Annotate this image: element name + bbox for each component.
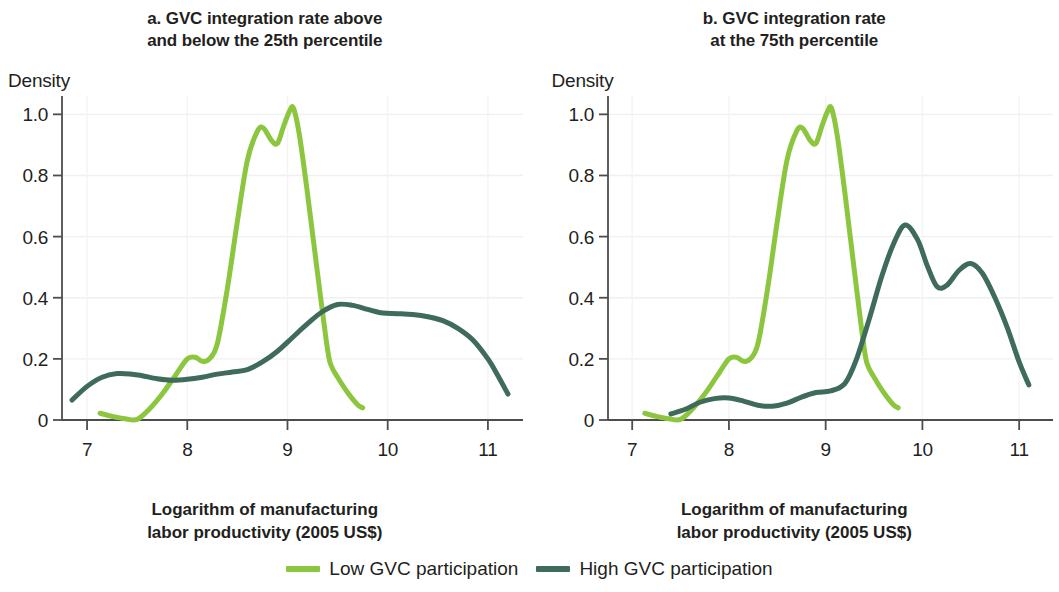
x-tick-label: 7	[627, 439, 637, 460]
panel-a-x-axis-title: Logarithm of manufacturing labor product…	[0, 498, 530, 544]
legend-item-high-gvc: High GVC participation	[536, 558, 772, 580]
x-tick-label: 9	[820, 439, 830, 460]
x-tick-label: 10	[912, 439, 933, 460]
panel-a-chart: 00.20.40.60.81.07891011	[0, 52, 529, 492]
legend-label-low-gvc: Low GVC participation	[329, 558, 518, 580]
y-tick-label: 0.6	[568, 227, 594, 248]
legend-swatch-low-gvc	[286, 566, 320, 572]
y-tick-label: 0.8	[22, 165, 48, 186]
y-tick-label: 1.0	[568, 104, 594, 125]
y-tick-label: 0.2	[22, 349, 48, 370]
legend-item-low-gvc: Low GVC participation	[286, 558, 518, 580]
legend-label-high-gvc: High GVC participation	[579, 558, 772, 580]
panel-a-plot-wrap: Density 00.20.40.60.81.07891011	[0, 52, 530, 492]
x-tick-label: 10	[377, 439, 398, 460]
y-tick-label: 0.2	[568, 349, 594, 370]
y-tick-label: 0.6	[22, 227, 48, 248]
x-tick-label: 8	[723, 439, 733, 460]
legend-swatch-high-gvc	[536, 566, 570, 572]
panel-a: a. GVC integration rate above and below …	[0, 0, 530, 544]
panel-a-title: a. GVC integration rate above and below …	[0, 0, 530, 52]
x-tick-label: 9	[282, 439, 292, 460]
panel-b: b. GVC integration rate at the 75th perc…	[530, 0, 1059, 544]
x-tick-label: 8	[182, 439, 192, 460]
y-tick-label: 0	[583, 410, 593, 431]
y-tick-label: 0	[38, 410, 48, 431]
y-tick-label: 0.8	[568, 165, 594, 186]
legend: Low GVC participation High GVC participa…	[0, 558, 1059, 580]
panel-b-chart: 00.20.40.60.81.07891011	[530, 52, 1059, 492]
panel-b-plot-wrap: Density 00.20.40.60.81.07891011	[530, 52, 1059, 492]
series-line	[72, 304, 508, 400]
y-tick-label: 0.4	[22, 288, 48, 309]
x-tick-label: 11	[1009, 439, 1028, 460]
panel-b-title: b. GVC integration rate at the 75th perc…	[530, 0, 1059, 52]
panel-b-y-axis-title: Density	[552, 70, 614, 92]
x-tick-label: 7	[82, 439, 92, 460]
figure-container: a. GVC integration rate above and below …	[0, 0, 1059, 592]
series-line	[644, 107, 897, 421]
panels-row: a. GVC integration rate above and below …	[0, 0, 1059, 544]
y-tick-label: 1.0	[22, 104, 48, 125]
panel-b-x-axis-title: Logarithm of manufacturing labor product…	[530, 498, 1059, 544]
panel-a-y-axis-title: Density	[8, 70, 70, 92]
x-tick-label: 11	[478, 439, 497, 460]
y-tick-label: 0.4	[568, 288, 594, 309]
